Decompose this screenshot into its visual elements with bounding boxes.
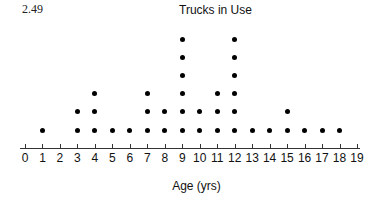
data-point-dot — [75, 128, 80, 133]
data-point-dot — [232, 128, 237, 133]
x-axis-tick — [217, 144, 218, 149]
data-point-dot — [215, 128, 220, 133]
data-point-dot — [302, 128, 307, 133]
x-axis-tick-label: 19 — [347, 151, 367, 165]
x-axis-tick — [147, 144, 148, 149]
data-point-dot — [250, 128, 255, 133]
x-axis-tick — [130, 144, 131, 149]
data-point-dot — [162, 128, 167, 133]
x-axis-tick — [252, 144, 253, 149]
data-point-dot — [92, 109, 97, 114]
data-point-dot — [215, 109, 220, 114]
x-axis-tick — [95, 144, 96, 149]
x-axis-tick — [77, 144, 78, 149]
x-axis-label: Age (yrs) — [0, 179, 381, 193]
data-point-dot — [110, 128, 115, 133]
data-point-dot — [40, 128, 45, 133]
data-point-dot — [180, 128, 185, 133]
data-point-dot — [232, 109, 237, 114]
data-point-dot — [162, 109, 167, 114]
data-point-dot — [337, 128, 342, 133]
x-axis-tick — [60, 144, 61, 149]
data-point-dot — [127, 128, 132, 133]
x-axis-tick — [25, 144, 26, 149]
x-axis-tick — [200, 144, 201, 149]
data-point-dot — [197, 128, 202, 133]
x-axis-tick — [287, 144, 288, 149]
data-point-dot — [92, 128, 97, 133]
data-point-dot — [180, 37, 185, 42]
data-point-dot — [215, 91, 220, 96]
x-axis-tick — [322, 144, 323, 149]
data-point-dot — [145, 91, 150, 96]
data-point-dot — [75, 109, 80, 114]
data-point-dot — [232, 37, 237, 42]
x-axis-tick — [112, 144, 113, 149]
data-point-dot — [285, 128, 290, 133]
data-point-dot — [145, 128, 150, 133]
data-point-dot — [232, 55, 237, 60]
x-axis-tick — [182, 144, 183, 149]
x-axis-tick — [42, 144, 43, 149]
x-axis-tick — [235, 144, 236, 149]
x-axis-tick — [165, 144, 166, 149]
data-point-dot — [180, 91, 185, 96]
data-point-dot — [232, 91, 237, 96]
data-point-dot — [180, 55, 185, 60]
data-point-dot — [232, 73, 237, 78]
data-point-dot — [197, 109, 202, 114]
x-axis-tick — [357, 144, 358, 149]
chart-title: Trucks in Use — [0, 3, 381, 17]
x-axis-line — [20, 148, 360, 149]
x-axis-tick — [305, 144, 306, 149]
data-point-dot — [320, 128, 325, 133]
data-point-dot — [285, 109, 290, 114]
x-axis-tick — [340, 144, 341, 149]
data-point-dot — [92, 91, 97, 96]
data-point-dot — [180, 109, 185, 114]
x-axis-tick — [270, 144, 271, 149]
data-point-dot — [145, 109, 150, 114]
data-point-dot — [267, 128, 272, 133]
data-point-dot — [180, 73, 185, 78]
